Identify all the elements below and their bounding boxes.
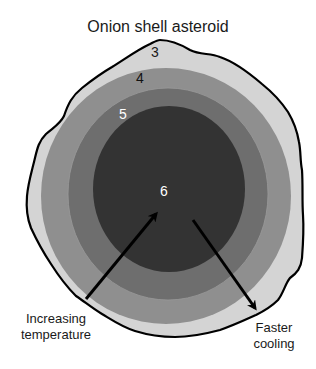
layer-6-label: 6 xyxy=(160,183,168,199)
caption-line-1: Faster xyxy=(246,320,302,336)
caption-line-2: cooling xyxy=(246,336,302,352)
layer-4-label: 4 xyxy=(136,70,144,86)
increasing-temperature-caption: Increasing temperature xyxy=(15,311,97,343)
layer-3-label: 3 xyxy=(151,44,159,60)
caption-line-1: Increasing xyxy=(15,311,97,327)
faster-cooling-caption: Faster cooling xyxy=(246,320,302,352)
layer-5-label: 5 xyxy=(119,106,127,122)
core-layer-6 xyxy=(93,106,245,272)
diagram-title: Onion shell asteroid xyxy=(0,18,316,36)
caption-line-2: temperature xyxy=(15,327,97,343)
